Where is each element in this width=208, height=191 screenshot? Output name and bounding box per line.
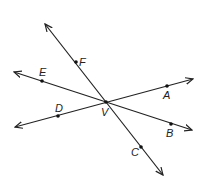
- label-b: B: [166, 127, 173, 139]
- point-b: [169, 122, 173, 126]
- label-e: E: [39, 66, 47, 78]
- point-a: [165, 84, 169, 88]
- point-c: [139, 145, 143, 149]
- label-d: D: [55, 102, 63, 114]
- geometry-diagram: FEADBCV: [0, 0, 208, 191]
- label-f: F: [79, 56, 87, 68]
- point-v: [104, 100, 108, 104]
- point-d: [56, 114, 60, 118]
- labels-group: FEADBCV: [39, 56, 173, 158]
- line-FC: [45, 24, 163, 175]
- point-e: [40, 79, 44, 83]
- label-v: V: [101, 106, 110, 118]
- label-c: C: [131, 146, 139, 158]
- point-f: [74, 60, 78, 64]
- label-a: A: [162, 89, 170, 101]
